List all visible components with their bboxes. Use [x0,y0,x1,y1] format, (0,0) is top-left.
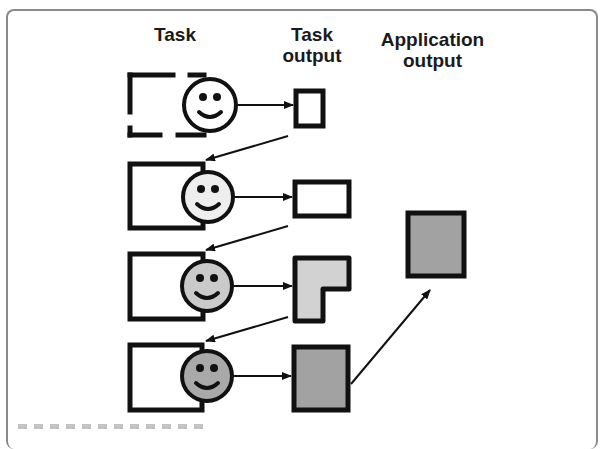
feedback-arrow-2 [206,226,288,250]
face-outline [182,351,232,401]
face-right-eye [211,185,219,193]
task-output-shape [295,258,349,321]
face-right-eye [210,364,218,372]
face-right-eye [213,93,221,101]
face-outline [184,79,236,131]
smiley-face-icon [182,351,232,401]
task-row-4 [130,345,348,410]
task-row-1 [130,75,323,135]
feedback-arrow-3 [206,317,288,341]
task-output-shape [295,182,349,216]
face-left-eye [196,364,204,372]
smiley-face-icon [182,261,232,311]
application-output-shape [408,213,464,276]
feedback-arrow-1 [206,136,288,160]
arrow-to-application-output [351,290,430,384]
cropped-caption-fragment [18,424,208,429]
face-right-eye [210,274,218,282]
task-row-2 [130,164,349,228]
task-output-shape [296,91,323,126]
smiley-face-icon [183,172,233,222]
smiley-face-icon [184,79,236,131]
task-output-shape [294,347,348,410]
face-left-eye [197,185,205,193]
face-outline [182,261,232,311]
face-left-eye [199,93,207,101]
face-outline [183,172,233,222]
task-row-3 [130,254,349,321]
face-left-eye [196,274,204,282]
